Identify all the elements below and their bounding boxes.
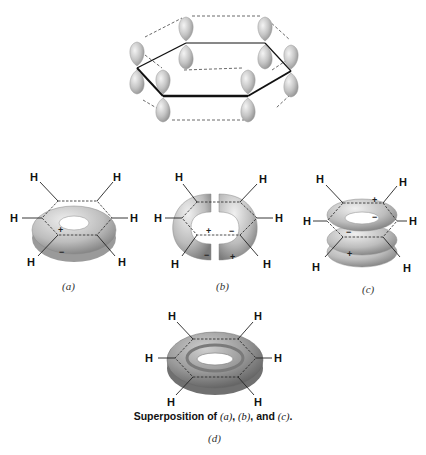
h-atom: H (154, 212, 162, 224)
figure-caption: Superposition of (a), (b), and (c). (0, 410, 426, 422)
plus-sign: + (206, 226, 211, 236)
minus-sign: − (372, 212, 377, 222)
plus-sign: + (230, 252, 235, 262)
p-orbital-hexagon-diagram (100, 0, 320, 140)
caption-ref-c: (c) (278, 411, 290, 422)
h-atom: H (168, 310, 176, 322)
h-atom: H (263, 258, 271, 270)
h-atom: H (399, 176, 407, 188)
minus-sign: − (59, 247, 64, 257)
h-atom: H (316, 173, 324, 185)
h-atom: H (175, 171, 183, 183)
h-atom: H (145, 352, 153, 364)
h-atom: H (254, 310, 262, 322)
minus-sign: − (229, 226, 234, 236)
h-atom: H (274, 352, 282, 364)
panel-label-c: (c) (362, 283, 374, 295)
h-atom: H (259, 173, 267, 185)
panel-d-superposition-torus: H H H H H H (120, 300, 310, 410)
h-atom: H (30, 171, 38, 183)
h-atom: H (118, 256, 126, 268)
panel-b-split-torus: H H H H H H + − − + (145, 160, 285, 310)
panel-label-a: (a) (62, 280, 75, 292)
h-atom: H (10, 212, 18, 224)
minus-sign: − (346, 227, 351, 237)
h-atom: H (403, 262, 411, 274)
plus-sign: + (58, 225, 63, 235)
plus-sign: + (372, 195, 377, 205)
panel-c-double-torus: H H H H H H + − − + (280, 160, 426, 310)
minus-sign: − (204, 250, 209, 260)
caption-ref-a: (a) (220, 411, 232, 422)
h-atom: H (171, 258, 179, 270)
caption-suffix: . (289, 410, 292, 422)
caption-prefix: Superposition of (134, 410, 220, 422)
panel-label-d: (d) (208, 432, 221, 444)
h-atom: H (409, 215, 417, 227)
h-atom: H (130, 212, 138, 224)
h-atom: H (303, 215, 311, 227)
h-atom: H (254, 396, 262, 408)
plus-sign: + (347, 249, 352, 259)
panel-label-b: (b) (216, 280, 229, 292)
caption-sep: , and (250, 410, 277, 422)
h-atom: H (167, 396, 175, 408)
h-atom: H (27, 256, 35, 268)
h-atom: H (312, 261, 320, 273)
h-atom: H (113, 171, 121, 183)
caption-ref-b: (b) (238, 411, 250, 422)
